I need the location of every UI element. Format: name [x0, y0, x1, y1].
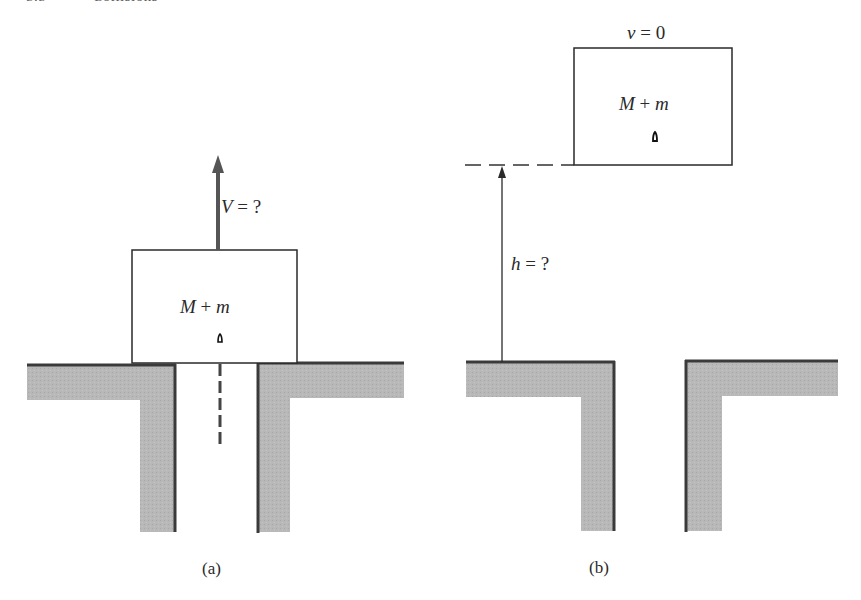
block-label-b: M + m — [619, 93, 669, 115]
height-variable: h — [511, 253, 521, 274]
left-wall-b — [466, 361, 615, 531]
right-wall-a — [257, 362, 404, 533]
mass-m: m — [655, 93, 669, 114]
velocity-label-b: v = 0 — [627, 22, 665, 44]
block-label-a: M + m — [180, 296, 230, 318]
right-wall-b — [685, 360, 838, 532]
velocity-label-a: V = ? — [221, 196, 261, 218]
figure-b — [465, 48, 838, 532]
caption-b: (b) — [589, 558, 609, 578]
height-label-b: h = ? — [511, 253, 549, 275]
caption-a: (a) — [202, 559, 221, 579]
plus-sign: + — [635, 93, 655, 114]
velocity-equals: = ? — [233, 196, 262, 217]
ballistic-pendulum-figure — [0, 0, 861, 600]
figure-a — [27, 155, 404, 533]
velocity-equals: = 0 — [635, 22, 665, 43]
height-arrow-b — [498, 166, 506, 362]
left-wall-a — [27, 364, 176, 532]
mass-M: M — [619, 93, 635, 114]
mass-M: M — [180, 296, 196, 317]
plus-sign: + — [196, 296, 216, 317]
height-equals: = ? — [521, 253, 550, 274]
mass-m: m — [216, 296, 230, 317]
velocity-variable: V — [221, 196, 233, 217]
